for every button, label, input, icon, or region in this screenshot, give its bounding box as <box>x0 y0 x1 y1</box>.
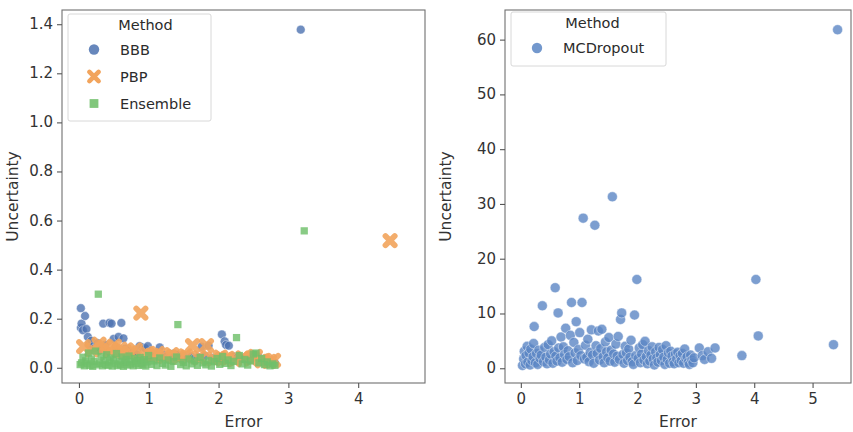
data-point <box>710 343 720 353</box>
data-point <box>271 362 278 369</box>
x-tick-label: 0 <box>517 390 527 408</box>
data-point <box>578 213 588 223</box>
data-point <box>707 353 717 363</box>
y-tick-label: 1.2 <box>29 64 53 82</box>
y-tick-label: 0.0 <box>29 359 53 377</box>
data-point <box>233 334 240 341</box>
legend-marker-circle <box>89 44 99 54</box>
data-point <box>224 341 233 350</box>
y-tick-label: 20 <box>477 250 496 268</box>
data-point <box>95 291 102 298</box>
data-point <box>385 236 394 245</box>
data-point <box>117 318 126 327</box>
data-point <box>630 310 640 320</box>
right-plot-svg: 0102030405060012345ErrorUncertaintyMetho… <box>427 0 853 432</box>
legend-marker-circle <box>532 43 542 53</box>
data-point <box>202 341 211 350</box>
data-point <box>737 351 747 361</box>
right-scatter-panel: 0102030405060012345ErrorUncertaintyMetho… <box>427 0 853 432</box>
y-tick-label: 0.2 <box>29 310 53 328</box>
x-tick-label: 1 <box>144 390 154 408</box>
y-tick-label: 1.0 <box>29 113 53 131</box>
x-tick-label: 0 <box>75 390 85 408</box>
x-tick-label: 4 <box>750 390 760 408</box>
x-tick-label: 4 <box>354 390 364 408</box>
data-point <box>136 308 145 317</box>
data-point <box>617 308 627 318</box>
figure-container: 0.00.20.40.60.81.01.21.401234ErrorUncert… <box>0 0 853 432</box>
data-point <box>553 308 563 318</box>
data-point <box>247 357 254 364</box>
data-point <box>173 353 180 360</box>
data-point <box>632 274 642 284</box>
data-point <box>597 324 607 334</box>
x-axis-title: Error <box>225 413 263 431</box>
data-point <box>529 322 539 332</box>
x-tick-label: 2 <box>214 390 224 408</box>
y-tick-label: 0.6 <box>29 212 53 230</box>
data-point <box>537 301 547 311</box>
legend-title: Method <box>118 17 172 33</box>
data-point <box>751 274 761 284</box>
y-tick-label: 0.4 <box>29 261 53 279</box>
x-tick-label: 3 <box>284 390 294 408</box>
data-point <box>753 331 763 341</box>
data-point <box>188 341 197 350</box>
data-point <box>613 331 623 341</box>
legend-marker-square <box>90 99 99 108</box>
data-point <box>607 192 617 202</box>
legend-marker-x <box>89 72 98 81</box>
left-scatter-panel: 0.00.20.40.60.81.01.21.401234ErrorUncert… <box>0 0 427 432</box>
legend-title: Method <box>565 15 619 31</box>
data-point <box>550 283 560 293</box>
x-tick-label: 5 <box>808 390 818 408</box>
y-tick-label: 1.4 <box>29 15 53 33</box>
data-point <box>571 317 581 327</box>
data-point <box>577 297 587 307</box>
x-tick-label: 3 <box>692 390 702 408</box>
legend-entry-label: Ensemble <box>120 96 191 112</box>
data-point <box>76 304 85 313</box>
y-tick-label: 60 <box>477 31 496 49</box>
data-point <box>296 25 305 34</box>
left-plot-svg: 0.00.20.40.60.81.01.21.401234ErrorUncert… <box>0 0 427 432</box>
x-axis-title: Error <box>659 413 697 431</box>
data-point <box>174 321 181 328</box>
legend-entry-label: BBB <box>120 42 150 58</box>
x-tick-label: 2 <box>633 390 643 408</box>
data-point <box>107 319 116 328</box>
data-point <box>81 312 90 321</box>
y-tick-label: 50 <box>477 85 496 103</box>
data-point <box>828 340 838 350</box>
y-tick-label: 30 <box>477 195 496 213</box>
y-tick-label: 40 <box>477 140 496 158</box>
data-point <box>590 220 600 230</box>
data-point <box>575 328 585 338</box>
y-tick-label: 0 <box>486 359 496 377</box>
data-point <box>833 25 843 35</box>
legend: MethodMCDropout <box>511 12 666 66</box>
data-point <box>301 227 308 234</box>
legend-entry-label: MCDropout <box>563 40 645 56</box>
data-point <box>567 297 577 307</box>
y-axis-title: Uncertainty <box>4 151 22 242</box>
y-tick-label: 0.8 <box>29 162 53 180</box>
y-axis-title: Uncertainty <box>437 151 455 242</box>
data-point <box>626 335 636 345</box>
x-tick-label: 1 <box>575 390 585 408</box>
data-point <box>583 334 593 344</box>
y-tick-label: 10 <box>477 304 496 322</box>
legend-entry-label: PBP <box>120 69 148 85</box>
data-point <box>556 332 566 342</box>
legend: MethodBBBPBPEnsemble <box>68 14 211 121</box>
data-point <box>82 325 91 334</box>
